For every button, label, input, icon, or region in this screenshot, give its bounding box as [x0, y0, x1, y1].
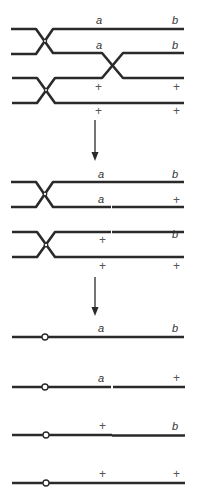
allele-label: b — [172, 39, 178, 51]
chromosome-crossover-diagram: a b a b + + + + a b a + + b + + — [0, 0, 198, 499]
centromere-icon — [43, 39, 46, 42]
allele-label: + — [99, 467, 106, 481]
allele-label: + — [99, 259, 106, 273]
allele-label: + — [95, 104, 102, 118]
allele-label: a — [96, 39, 102, 51]
allele-label: b — [172, 420, 178, 432]
down-arrow-icon — [92, 120, 99, 161]
stage-2-tetrad: a b a + + b + + — [11, 168, 184, 273]
allele-label: + — [173, 371, 180, 385]
allele-label: + — [95, 80, 102, 94]
allele-label: + — [173, 259, 180, 273]
stage-3-chromatids: a b a + + b + + — [12, 322, 185, 486]
centromere-icon — [44, 243, 48, 247]
chromatid-1 — [11, 182, 111, 207]
centromere-icon — [43, 432, 49, 438]
allele-label: b — [172, 322, 178, 334]
allele-label: b — [172, 228, 178, 240]
allele-label: a — [98, 372, 104, 384]
centromere-icon — [42, 334, 48, 340]
allele-label: + — [173, 104, 180, 118]
chromatid-3 — [12, 232, 184, 257]
allele-label: a — [98, 322, 104, 334]
centromere-icon — [43, 192, 47, 196]
allele-label: + — [173, 193, 180, 207]
allele-label: a — [98, 193, 104, 205]
allele-label: + — [99, 233, 106, 247]
allele-label: a — [98, 168, 104, 180]
centromere-icon — [43, 480, 49, 486]
centromere-icon — [42, 384, 48, 390]
allele-label: b — [172, 14, 178, 26]
allele-label: + — [99, 419, 106, 433]
chromatid-4 — [12, 232, 111, 257]
stage-1-tetrad: a b a b + + + + — [11, 14, 184, 118]
centromere-icon — [44, 88, 47, 91]
allele-label: + — [173, 80, 180, 94]
down-arrow-icon — [92, 277, 99, 316]
allele-label: a — [96, 14, 102, 26]
allele-label: b — [172, 168, 178, 180]
allele-label: + — [173, 467, 180, 481]
